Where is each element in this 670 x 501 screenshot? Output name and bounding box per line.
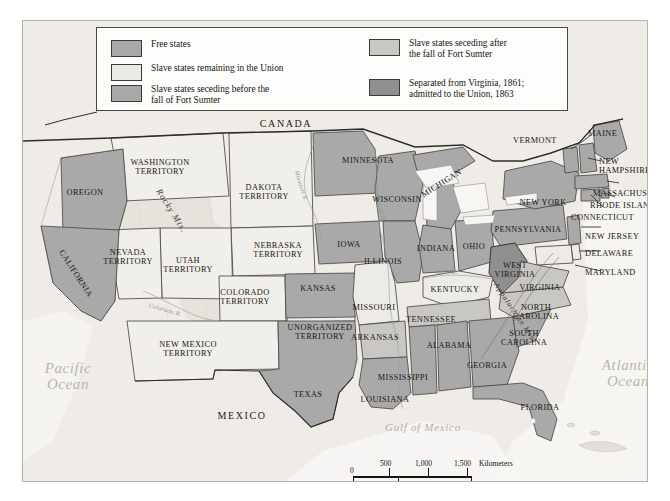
scale-tick-mi-500: [398, 478, 399, 482]
legend-swatch-west-virginia: [369, 79, 400, 96]
civil-war-map-figure: CANADA MEXICO Pacific Ocean Atlantic Oce…: [0, 0, 670, 501]
scale-km-unit: Kilometers: [479, 459, 513, 468]
legend-label-seceded-before-sumter: Slave states seceding before the fall of…: [151, 84, 269, 107]
scale-tick-km-1500: [467, 468, 468, 476]
scale-km-tick-1500: 1,500: [454, 459, 471, 468]
scale-bar: 0 500 1,000 1,500 Kilometers 0 500 1,000…: [353, 458, 525, 482]
legend-label-union-slave-states: Slave states remaining in the Union: [151, 63, 283, 74]
legend-swatch-union-slave-states: [111, 64, 142, 81]
legend-swatch-free-states: [111, 40, 142, 57]
scale-rule-km: [353, 476, 471, 478]
legend-swatch-seceded-before-sumter: [111, 85, 142, 102]
legend-label-west-virginia: Separated from Virginia, 1861; admitted …: [409, 78, 524, 101]
scale-tick-km-500: [389, 468, 390, 476]
legend-item-free-states: Free states: [111, 39, 321, 57]
legend-label-free-states: Free states: [151, 39, 191, 50]
scale-tick-mi-1000: [471, 476, 472, 482]
scale-km-tick-500: 500: [380, 459, 391, 468]
legend-swatch-seceded-after-sumter: [369, 39, 400, 56]
legend-item-seceded-after-sumter: Slave states seceding after the fall of …: [369, 38, 559, 61]
legend-label-seceded-after-sumter: Slave states seceding after the fall of …: [409, 38, 507, 61]
scale-km-tick-1000: 1,000: [415, 459, 432, 468]
legend-item-west-virginia: Separated from Virginia, 1861; admitted …: [369, 78, 564, 101]
legend-item-seceded-before-sumter: Slave states seceding before the fall of…: [111, 84, 381, 107]
scale-tick-origin: [353, 476, 354, 482]
map-legend: Free states Slave states remaining in th…: [96, 27, 568, 111]
legend-item-union-slave-states: Slave states remaining in the Union: [111, 63, 381, 81]
scale-km-tick-0: 0: [350, 466, 354, 475]
scale-tick-km-1000: [428, 468, 429, 476]
